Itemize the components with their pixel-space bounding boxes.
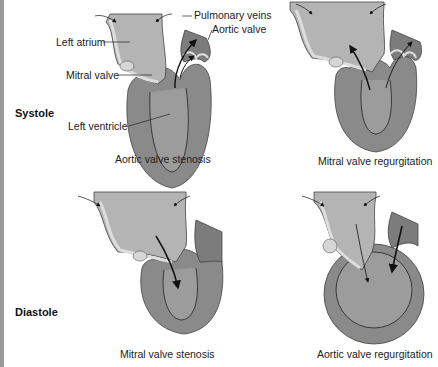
- label-aortic-valve: Aortic valve: [212, 23, 266, 35]
- label-mitral-valve: Mitral valve: [66, 69, 119, 81]
- label-left-ventricle: Left ventricle: [68, 120, 128, 132]
- row-label-diastole: Diastole: [15, 306, 58, 318]
- panel-aortic-valve-regurgitation: [302, 192, 424, 344]
- panel-mitral-valve-regurgitation: [290, 2, 422, 152]
- heart-diagrams: [0, 0, 438, 367]
- label-left-atrium: Left atrium: [56, 36, 106, 48]
- caption-mitral-valve-regurgitation: Mitral valve regurgitation: [318, 155, 432, 167]
- row-label-systole: Systole: [15, 107, 54, 119]
- caption-mitral-valve-stenosis: Mitral valve stenosis: [120, 348, 215, 360]
- label-pulmonary-veins: Pulmonary veins: [194, 9, 272, 21]
- caption-aortic-valve-stenosis: Aortic valve stenosis: [115, 153, 211, 165]
- caption-aortic-valve-regurgitation: Aortic valve regurgitation: [317, 348, 433, 360]
- panel-mitral-valve-stenosis: [78, 192, 223, 334]
